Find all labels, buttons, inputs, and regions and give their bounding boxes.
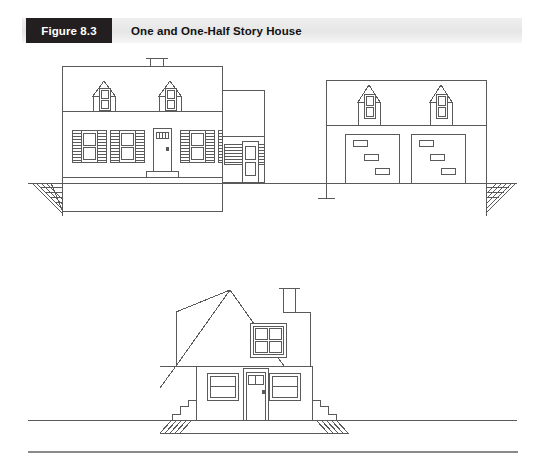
breezeway-door: [242, 141, 258, 182]
garage-wing: [326, 80, 486, 183]
grade-hatch-right: [486, 183, 516, 213]
figure-page: Figure 8.3 One and One-Half Story House: [0, 0, 544, 470]
attic-window-4pane: [250, 323, 286, 357]
garage-door-right: [411, 134, 465, 183]
window-shuttered-1: [72, 130, 106, 162]
bottom-rule: [28, 451, 518, 453]
breezeway: [222, 90, 334, 198]
window-shuttered-2: [110, 130, 144, 162]
window-shuttered-4: [218, 130, 222, 162]
window-shuttered-3: [180, 130, 214, 162]
gable-end-elevation-drawing: [0, 278, 544, 448]
chimney: [279, 288, 299, 312]
figure-title: One and One-Half Story House: [131, 18, 302, 43]
figure-number-label: Figure 8.3: [41, 25, 96, 37]
breezeway-railing-right: [258, 144, 264, 164]
stepped-footing-left: [160, 400, 196, 433]
entry-door: [243, 368, 268, 420]
grade-hatch-left: [28, 183, 62, 213]
garage-door-left: [345, 134, 399, 183]
front-elevation-drawing: [0, 46, 544, 281]
stepped-footing-right: [312, 400, 348, 433]
figure-number-badge: Figure 8.3: [26, 18, 112, 43]
main-house-block: [62, 58, 222, 211]
window-right: [269, 373, 300, 400]
breezeway-railing-left: [224, 144, 242, 164]
window-left: [207, 373, 238, 400]
